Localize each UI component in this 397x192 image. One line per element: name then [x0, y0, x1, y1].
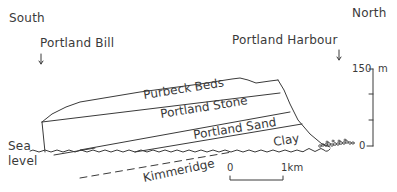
vertical-scale-bottom-label: 0 [359, 141, 366, 151]
geological-cross-section: Purbeck Beds Portland Stone Portland San… [0, 0, 397, 192]
cross-section-drawing: Purbeck Beds Portland Stone Portland San… [0, 0, 397, 192]
vertical-scale-bar [367, 69, 373, 146]
label-portland-sand: Portland Sand [192, 115, 277, 142]
horizontal-scale-start: 0 [227, 163, 234, 173]
horizontal-scale-bar [230, 176, 283, 180]
sea-level-label-line1: Sea [8, 140, 31, 152]
location-portland-harbour: Portland Harbour [232, 34, 338, 46]
label-kimmeridge: Kimmeridge [142, 156, 216, 185]
south-cliff-edge [42, 122, 45, 152]
pebble-beach-icon [319, 139, 354, 147]
arrow-portland-bill-icon [39, 54, 43, 64]
location-portland-bill: Portland Bill [40, 37, 114, 49]
vertical-scale-unit: m [378, 64, 388, 74]
sea-level-label-line2: level [8, 155, 38, 167]
vertical-scale-top-label: 150 [352, 64, 372, 74]
horizontal-scale-end: 1km [281, 163, 304, 173]
direction-south: South [9, 12, 45, 24]
label-clay: Clay [272, 131, 300, 149]
direction-north: North [352, 7, 387, 19]
arrow-portland-harbour-icon [337, 50, 341, 60]
